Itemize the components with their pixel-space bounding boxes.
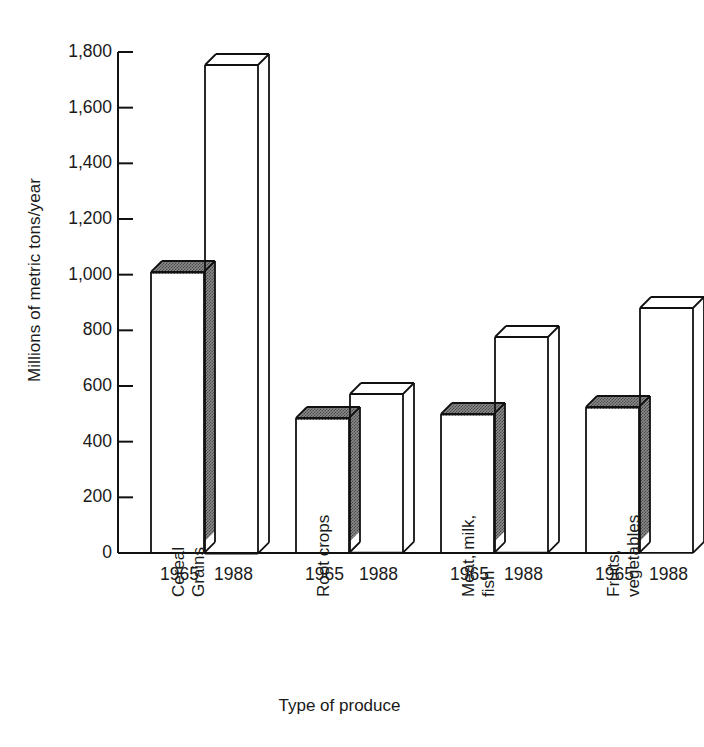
category-label-line2: fish (479, 515, 499, 597)
bar-outline (205, 54, 269, 553)
bar-1988-meat-milk-fish (495, 326, 559, 553)
category-label: Fruits,vegetables (604, 515, 644, 597)
bar-outline (495, 326, 559, 553)
category-label: Root crops (314, 515, 334, 597)
year-label-1988: 1988 (359, 566, 398, 584)
category-label-line1: Root crops (314, 515, 333, 597)
category-label-line2: vegetables (624, 515, 644, 597)
bar-1988-fruits-vegetables (640, 297, 704, 553)
year-label-1988: 1988 (649, 566, 688, 584)
bar-outline (640, 297, 704, 553)
bar-outline (350, 383, 414, 553)
bar-1988-root-crops (350, 383, 414, 553)
category-label: Meat, milk,fish (459, 515, 499, 597)
category-label-line2: Grains (189, 547, 209, 597)
category-label: CerealGrains (169, 547, 209, 597)
bar-1988-cereal-grains (205, 54, 269, 553)
category-label-line1: Fruits, (604, 550, 623, 597)
year-label-1988: 1988 (504, 566, 543, 584)
category-label-line1: Cereal (169, 547, 188, 597)
plot-area: 02004006008001,0001,2001,4001,6001,800 1… (0, 0, 679, 600)
category-label-line1: Meat, milk, (459, 515, 478, 597)
year-label-1988: 1988 (214, 566, 253, 584)
x-axis-title-text: Type of produce (279, 696, 401, 715)
x-axis-title: Type of produce (0, 696, 679, 716)
